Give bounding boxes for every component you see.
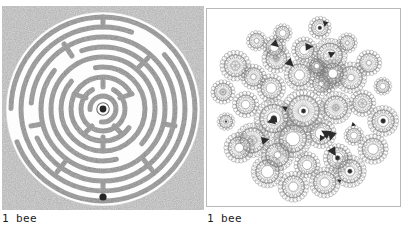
caption-left: 1 bee xyxy=(2,212,37,225)
screenshot-stage: 1 bee 1 bee xyxy=(0,0,406,232)
rosette-mandala-panel xyxy=(206,8,401,207)
rosette xyxy=(211,80,236,104)
rosette xyxy=(224,133,255,163)
noisy-labyrinth-panel xyxy=(2,6,204,210)
rosette xyxy=(251,155,284,188)
rosette xyxy=(374,77,392,95)
caption-right: 1 bee xyxy=(207,212,242,225)
labyrinth-image xyxy=(2,6,204,210)
rosette-mandala-image xyxy=(207,9,400,206)
rosette xyxy=(278,171,309,202)
labyrinth-center-marker xyxy=(100,106,107,113)
rosette xyxy=(358,134,389,164)
rosette xyxy=(333,155,366,188)
rosette xyxy=(217,113,235,131)
labyrinth-entrance-marker xyxy=(99,193,106,200)
rosette xyxy=(220,50,251,81)
